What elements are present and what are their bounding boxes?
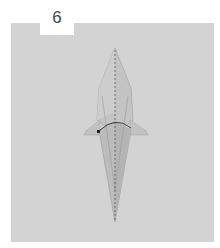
- origami-model-illustration: [0, 0, 220, 248]
- arrow-tail-marker: [97, 130, 100, 133]
- model-upper-left-face: [97, 48, 115, 120]
- model-right-flap: [130, 120, 148, 135]
